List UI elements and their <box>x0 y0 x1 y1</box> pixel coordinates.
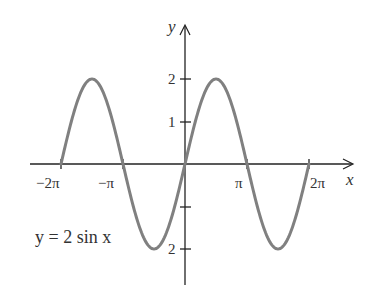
y-tick-label-neg2: 2 <box>168 241 176 257</box>
x-tick-label-negpi: −π <box>98 175 114 191</box>
y-tick-label-2: 2 <box>168 71 176 87</box>
x-tick-label-2pi: 2π <box>310 175 326 191</box>
equation-label: y = 2 sin x <box>35 227 111 247</box>
x-axis-label: x <box>345 170 354 189</box>
y-tick-label-1: 1 <box>168 114 176 130</box>
x-tick-label-neg2pi: −2π <box>36 175 60 191</box>
sine-chart: y x −2π −π π 2π 2 1 2 y = 2 sin x <box>0 0 371 285</box>
x-tick-label-pi: π <box>235 175 243 191</box>
y-axis-label: y <box>166 17 176 36</box>
